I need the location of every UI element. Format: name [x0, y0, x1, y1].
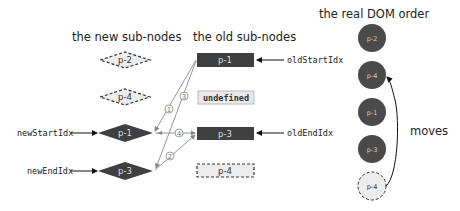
title-new-sub-nodes: the new sub-nodes [72, 30, 181, 44]
old-node-p3: p-3 [197, 127, 254, 140]
new-node-p2: p-2 [100, 52, 150, 68]
dom-node-p3: p-3 [358, 135, 386, 163]
new-node-p1: p-1 [98, 124, 153, 142]
old-node-label: p-4 [218, 166, 232, 176]
pointer-new-start-idx: newStartIdx [17, 128, 73, 138]
step-badge-1: 1 [165, 105, 173, 114]
dom-node-p1: p-1 [358, 98, 386, 126]
dom-node-p4: p-4 [358, 61, 386, 89]
step-badge-4: 4 [175, 129, 183, 138]
title-real-dom-order: the real DOM order [319, 7, 429, 21]
step-badge-2: 2 [166, 152, 174, 161]
new-node-p3: p-3 [98, 162, 153, 180]
old-node-undefined: undefined [198, 91, 254, 104]
title-old-sub-nodes: the old sub-nodes [193, 30, 296, 44]
old-node-label: p-1 [218, 55, 232, 65]
old-node-p1: p-1 [197, 53, 254, 67]
step-badge-3: 3 [180, 92, 188, 101]
new-node-p4: p-4 [100, 89, 150, 105]
dom-node-p4-new: p-4 [358, 172, 386, 200]
moves-arrow-icon [386, 77, 398, 186]
svg-text:p-4: p-4 [367, 183, 378, 191]
new-node-label: p-4 [118, 92, 132, 102]
pointer-old-start-idx: oldStartIdx [287, 55, 343, 65]
new-node-label: p-2 [118, 55, 132, 65]
svg-text:4: 4 [177, 130, 182, 138]
svg-text:p-1: p-1 [367, 109, 378, 117]
new-node-label: p-3 [118, 166, 132, 176]
diff-diagram: the new sub-nodes the old sub-nodes the … [0, 0, 460, 211]
moves-label: moves [410, 124, 448, 138]
old-node-label: undefined [203, 93, 249, 103]
svg-text:p-3: p-3 [367, 146, 378, 154]
new-node-label: p-1 [118, 128, 132, 138]
svg-text:3: 3 [182, 93, 186, 101]
old-node-p4: p-4 [197, 164, 254, 177]
pointer-new-end-idx: newEndIdx [27, 166, 73, 176]
svg-text:p-2: p-2 [367, 35, 378, 43]
svg-text:1: 1 [167, 106, 171, 114]
svg-text:p-4: p-4 [367, 72, 378, 80]
arrow-step-2-icon [155, 135, 195, 170]
pointer-old-end-idx: oldEndIdx [287, 128, 333, 138]
dom-node-p2: p-2 [358, 24, 386, 52]
old-node-label: p-3 [218, 129, 232, 139]
svg-text:2: 2 [168, 153, 172, 161]
arrow-step-1-icon [155, 60, 196, 131]
comparison-arrows [155, 60, 196, 170]
